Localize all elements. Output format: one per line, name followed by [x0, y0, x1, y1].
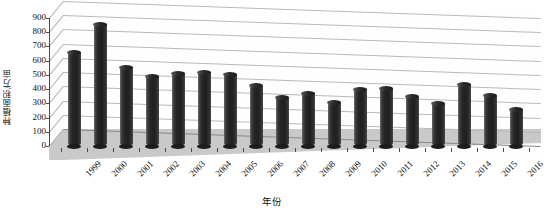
- x-tick-mark: [529, 148, 530, 152]
- x-tick-mark: [139, 148, 140, 152]
- x-tick-label: 2010: [370, 159, 389, 178]
- y-axis-tick-labels: 9008007006005004003002001000: [14, 0, 46, 216]
- x-tick-label: 2003: [188, 159, 207, 178]
- x-tick-label: 2015: [500, 159, 519, 178]
- y-tick-label: 0: [16, 141, 46, 150]
- x-tick-label: 2000: [110, 159, 129, 178]
- y-tick-mark: [46, 32, 49, 33]
- x-tick-mark: [61, 148, 62, 152]
- y-tick-mark: [46, 132, 49, 133]
- x-tick-label: 2001: [136, 159, 155, 178]
- x-tick-mark: [399, 148, 400, 152]
- x-tick-label: 2012: [422, 159, 441, 178]
- y-tick-label: 200: [16, 113, 46, 122]
- x-tick-mark: [321, 148, 322, 152]
- y-tick-mark: [46, 118, 49, 119]
- y-tick-mark: [46, 103, 49, 104]
- x-tick-mark: [243, 148, 244, 152]
- y-tick-label: 500: [16, 70, 46, 79]
- x-tick-mark: [217, 148, 218, 152]
- x-tick-label: 2009: [344, 159, 363, 178]
- x-tick-mark: [347, 148, 348, 152]
- x-tick-label: 2013: [448, 159, 467, 178]
- x-tick-label: 2005: [240, 159, 259, 178]
- x-tick-label: 1999: [84, 159, 103, 178]
- y-tick-mark: [46, 61, 49, 62]
- y-tick-label: 300: [16, 98, 46, 107]
- x-tick-mark: [477, 148, 478, 152]
- x-tick-label: 2002: [162, 159, 181, 178]
- x-tick-mark: [295, 148, 296, 152]
- x-tick-label: 2016: [526, 159, 544, 178]
- y-tick-label: 700: [16, 41, 46, 50]
- y-tick-label: 800: [16, 27, 46, 36]
- y-tick-mark: [46, 75, 49, 76]
- x-tick-mark: [451, 148, 452, 152]
- x-tick-mark: [165, 148, 166, 152]
- x-tick-label: 2011: [396, 159, 415, 178]
- x-tick-label: 2006: [266, 159, 285, 178]
- x-tick-label: 2014: [474, 159, 493, 178]
- y-tick-label: 600: [16, 56, 46, 65]
- x-axis-title: 年份: [0, 194, 544, 208]
- x-axis-tick-labels: 1999200020012002200320042005200620072008…: [49, 0, 541, 216]
- y-tick-mark: [46, 146, 49, 147]
- y-tick-label: 900: [16, 13, 46, 22]
- y-tick-mark: [46, 46, 49, 47]
- x-tick-mark: [87, 148, 88, 152]
- bar-chart: 种植面积/万亩 9008007006005004003002001000 199…: [0, 0, 544, 216]
- x-tick-mark: [191, 148, 192, 152]
- x-tick-mark: [503, 148, 504, 152]
- x-tick-mark: [113, 148, 114, 152]
- y-tick-label: 100: [16, 127, 46, 136]
- x-tick-mark: [425, 148, 426, 152]
- x-tick-label: 2008: [318, 159, 337, 178]
- x-tick-label: 2007: [292, 159, 311, 178]
- x-tick-label: 2004: [214, 159, 233, 178]
- y-tick-mark: [46, 18, 49, 19]
- y-tick-label: 400: [16, 84, 46, 93]
- y-tick-mark: [46, 89, 49, 90]
- x-tick-mark: [269, 148, 270, 152]
- x-tick-mark: [373, 148, 374, 152]
